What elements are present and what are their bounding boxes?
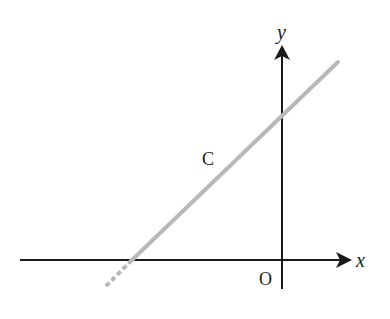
line-c-label: C — [202, 150, 214, 168]
line-c-dashed-extension — [105, 260, 132, 287]
origin-label: O — [259, 270, 272, 288]
diagram-svg — [0, 0, 390, 319]
y-axis-label: y — [277, 22, 286, 42]
diagram-canvas: y x O C — [0, 0, 390, 319]
x-axis-label: x — [356, 250, 365, 270]
line-c — [132, 62, 338, 260]
